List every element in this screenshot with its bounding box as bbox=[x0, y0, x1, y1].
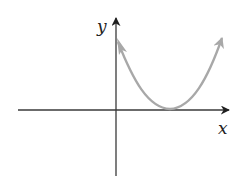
parabola-curve bbox=[118, 38, 222, 109]
x-axis-label: x bbox=[218, 118, 228, 138]
y-axis-label: y bbox=[96, 16, 107, 36]
function-graph: y x bbox=[0, 0, 246, 180]
